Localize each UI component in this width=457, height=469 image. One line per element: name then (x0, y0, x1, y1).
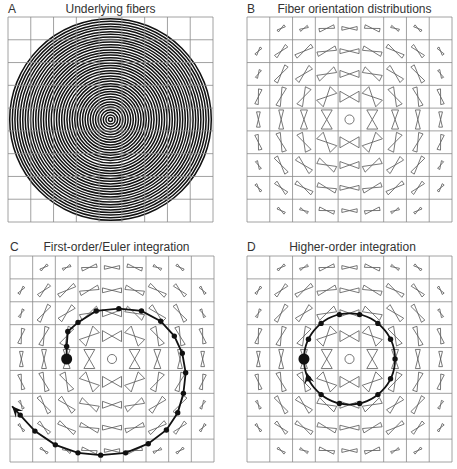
bowtie-glyph (340, 376, 359, 387)
bowtie-glyph (437, 134, 444, 150)
fiber-ring (98, 107, 123, 132)
bowtie-glyph (439, 112, 443, 127)
bowtie-glyph (60, 372, 74, 392)
bowtie-glyph (364, 264, 380, 271)
trajectory-point (375, 321, 380, 326)
trajectory-point (181, 391, 186, 396)
bowtie-glyph (104, 266, 119, 270)
bowtie-glyph (255, 374, 262, 390)
trajectory-point (318, 321, 323, 326)
bowtie-glyph (125, 372, 145, 392)
bowtie-glyph (317, 398, 337, 412)
bowtie-glyph (37, 284, 50, 297)
bowtie-glyph (277, 264, 285, 271)
trajectory-point (123, 450, 128, 455)
bowtie-glyph (274, 396, 288, 414)
bowtie-glyph (153, 264, 162, 270)
bowtie-glyph (153, 448, 162, 454)
trajectory-point (357, 401, 362, 406)
bowtie-glyph (340, 185, 359, 190)
trajectory-point (53, 442, 58, 447)
bowtie-glyph (257, 351, 261, 366)
bowtie-glyph (391, 448, 400, 454)
bowtie-glyph (150, 326, 164, 346)
fiber-ring (36, 45, 186, 195)
bowtie-glyph (437, 328, 444, 344)
trajectory-point (172, 333, 177, 338)
bowtie-glyph (40, 264, 48, 271)
bowtie-glyph (317, 46, 337, 56)
bowtie-glyph (300, 208, 309, 214)
bowtie-glyph (18, 424, 25, 432)
fiber-ring (46, 55, 175, 184)
bowtie-glyph (37, 304, 51, 322)
bowtie-glyph (411, 396, 425, 414)
bowtie-glyph (42, 349, 47, 368)
fiber-ring (54, 63, 167, 176)
bowtie-glyph (199, 374, 206, 390)
bowtie-glyph (255, 134, 262, 150)
bowtie-glyph (317, 372, 337, 392)
bowtie-glyph (102, 376, 121, 387)
bowtie-glyph (342, 449, 357, 453)
bowtie-glyph (437, 424, 444, 432)
bowtie-glyph (386, 181, 404, 195)
bowtie-glyph (255, 161, 261, 170)
bowtie-glyph (367, 349, 378, 368)
bowtie-glyph (386, 396, 403, 413)
seed-point (61, 354, 72, 365)
bowtie-glyph (176, 264, 184, 271)
bowtie-glyph (413, 372, 423, 392)
bowtie-glyph (79, 372, 99, 392)
bowtie-glyph (276, 372, 286, 392)
trajectory-point (116, 306, 121, 311)
trajectory-point (98, 452, 103, 457)
bowtie-glyph (317, 285, 337, 295)
bowtie-glyph (415, 110, 420, 129)
fiber-ring (88, 97, 134, 143)
bowtie-glyph (276, 87, 286, 107)
bowtie-glyph (279, 349, 284, 368)
bowtie-glyph (58, 421, 76, 435)
bowtie-glyph (297, 372, 311, 392)
bowtie-glyph (279, 110, 284, 129)
bowtie-glyph (415, 349, 420, 368)
bowtie-glyph (413, 132, 423, 152)
bowtie-glyph (277, 447, 285, 454)
bowtie-glyph (295, 44, 313, 58)
bowtie-glyph (300, 25, 309, 31)
fod-glyphs (255, 25, 444, 214)
bowtie-glyph (437, 89, 444, 105)
isotropic-glyph (345, 115, 354, 124)
bowtie-glyph (319, 25, 335, 32)
bowtie-glyph (437, 374, 444, 390)
bowtie-glyph (340, 288, 359, 293)
bowtie-glyph (391, 25, 400, 31)
trajectory-point (164, 427, 169, 432)
bowtie-glyph (386, 65, 403, 82)
bowtie-glyph (386, 421, 404, 435)
trajectory-point (388, 376, 393, 381)
bowtie-glyph (125, 326, 145, 346)
trajectory-point (75, 320, 80, 325)
bowtie-glyph (439, 351, 443, 366)
bowtie-glyph (176, 447, 184, 454)
trajectory-point (375, 392, 380, 397)
bowtie-glyph (317, 67, 337, 81)
bowtie-glyph (362, 306, 382, 320)
bowtie-glyph (391, 264, 400, 270)
bowtie-glyph (39, 372, 49, 392)
bowtie-glyph (125, 422, 145, 432)
trajectory-line (304, 313, 395, 404)
bowtie-glyph (319, 207, 335, 214)
trajectory-point (175, 410, 180, 415)
bowtie-glyph (40, 447, 48, 454)
bowtie-glyph (19, 351, 23, 366)
underlying-fibers-plot (8, 17, 213, 222)
bowtie-glyph (255, 47, 262, 55)
bowtie-glyph (277, 25, 285, 32)
fiber-ring (38, 47, 182, 191)
bowtie-glyph (362, 183, 382, 193)
bowtie-glyph (255, 328, 262, 344)
bowtie-glyph (37, 421, 50, 434)
